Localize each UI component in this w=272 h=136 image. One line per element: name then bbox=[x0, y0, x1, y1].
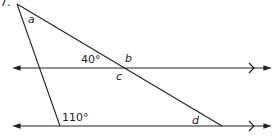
angle-label-a: a bbox=[28, 14, 35, 25]
transversal-lines bbox=[17, 4, 222, 126]
diagram-lines bbox=[0, 0, 272, 136]
angle-label-b: b bbox=[125, 53, 132, 64]
geometry-diagram: 7. a 40° b c 110° d bbox=[0, 0, 272, 136]
angle-label-c: c bbox=[116, 71, 122, 82]
angle-label-40: 40° bbox=[81, 54, 101, 65]
angle-label-110: 110° bbox=[62, 112, 89, 123]
upper-parallel-line bbox=[14, 63, 270, 73]
question-number: 7. bbox=[0, 0, 11, 8]
angle-label-d: d bbox=[192, 115, 199, 126]
lower-parallel-line bbox=[14, 121, 270, 131]
